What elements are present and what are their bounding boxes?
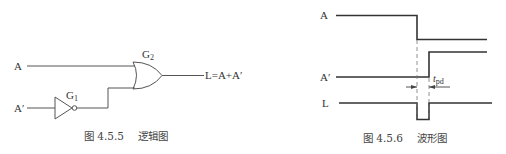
signal-l-label: L xyxy=(322,97,329,109)
gate-g2-label: G2 xyxy=(142,48,154,62)
wire-g1-to-g2 xyxy=(77,88,135,108)
signal-a-prime-label: A′ xyxy=(320,71,330,83)
waveform-a-prime xyxy=(336,52,487,77)
waveform-l xyxy=(339,103,492,120)
waveform-diagram: A A′ L tpd 图 4.5.6 波形图 xyxy=(320,9,492,144)
logic-diagram: A A′ G1 G2 L=A+A′ 图 4.5.5 逻辑图 xyxy=(14,48,242,142)
tpd-label: tpd xyxy=(433,73,444,86)
waveform-a xyxy=(336,16,487,40)
figure-caption-number: 图 4.5.6 xyxy=(363,132,403,144)
output-expression: L=A+A′ xyxy=(205,69,242,81)
figure-caption-number: 图 4.5.5 xyxy=(84,130,124,142)
input-a-prime-label: A′ xyxy=(14,102,24,114)
input-a-label: A xyxy=(14,60,22,72)
gate-g1-label: G1 xyxy=(66,89,78,103)
figure-canvas: A A′ G1 G2 L=A+A′ 图 4.5.5 逻辑图 A A′ L xyxy=(0,0,506,154)
figure-caption-title: 波形图 xyxy=(417,132,447,144)
figure-caption-title: 逻辑图 xyxy=(138,130,168,142)
signal-a-label: A xyxy=(320,9,328,21)
or-gate-icon xyxy=(133,62,162,89)
